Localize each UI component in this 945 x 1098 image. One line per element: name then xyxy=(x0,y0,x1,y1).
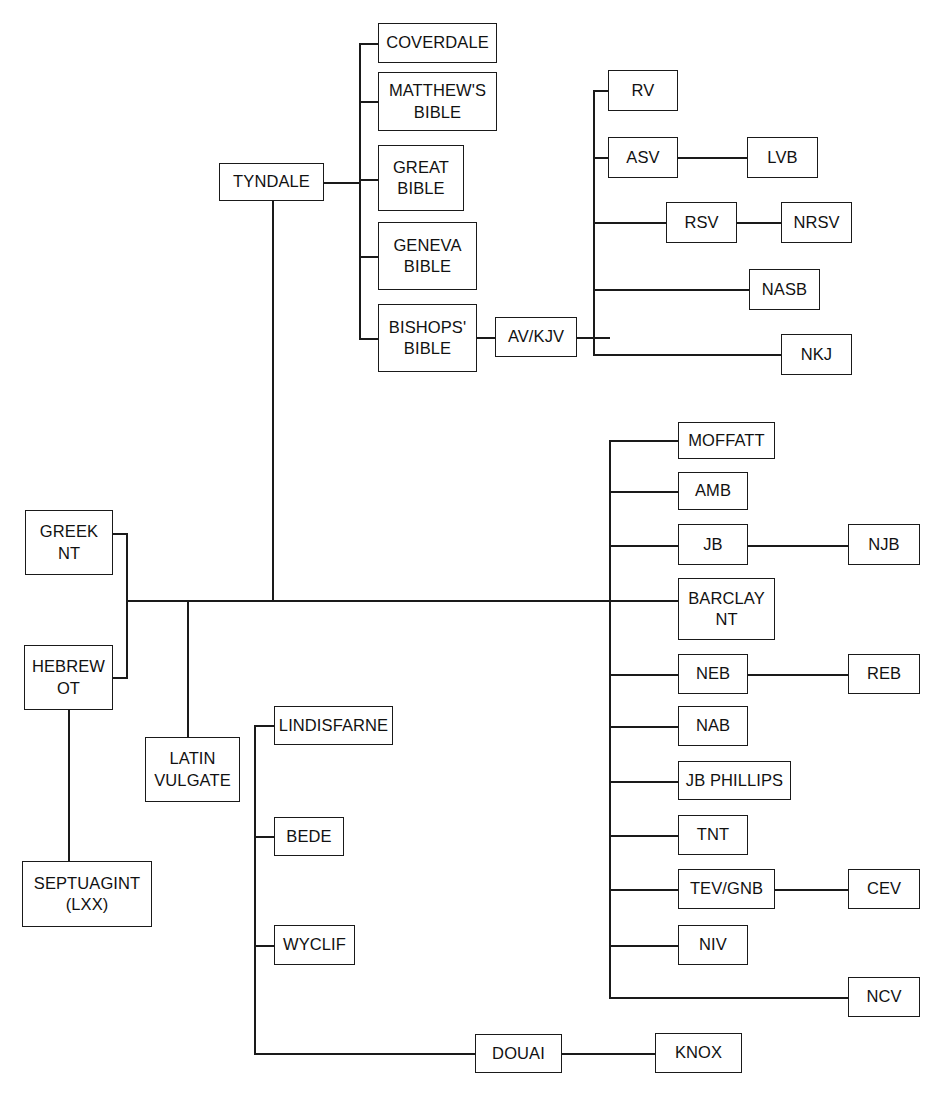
connector-hebrew-septuagint-v xyxy=(68,710,70,862)
connector-modern-bus-v xyxy=(609,440,611,997)
node-njb: NJB xyxy=(848,524,920,565)
connector-bus-wyclif xyxy=(254,945,275,947)
node-nab: NAB xyxy=(678,706,748,746)
connector-tyndale-bishops xyxy=(359,338,379,340)
node-moffatt: MOFFATT xyxy=(678,422,775,459)
connector-modern-barclay xyxy=(609,600,679,602)
connector-avkjv-nkj xyxy=(593,354,782,356)
connector-modern-ncv xyxy=(609,997,849,999)
node-asv: ASV xyxy=(608,137,678,178)
node-septuagint: SEPTUAGINT (LXX) xyxy=(22,861,152,927)
node-jb: JB xyxy=(678,524,748,565)
connector-bus-bede xyxy=(254,836,275,838)
node-great: GREAT BIBLE xyxy=(378,145,464,211)
node-matthews: MATTHEW'S BIBLE xyxy=(378,72,497,131)
connector-modern-neb xyxy=(609,674,679,676)
connector-neb-reb xyxy=(748,674,849,676)
node-ncv: NCV xyxy=(848,977,920,1017)
node-lindisfarne: LINDISFARNE xyxy=(274,706,393,745)
connector-rsv-nrsv xyxy=(737,222,782,224)
node-tev_gnb: TEV/GNB xyxy=(678,869,775,909)
node-latin_vulgate: LATIN VULGATE xyxy=(145,737,240,802)
connector-asv-lvb xyxy=(678,157,748,159)
node-cev: CEV xyxy=(848,869,920,909)
connector-douai-knox xyxy=(562,1053,656,1055)
node-rv: RV xyxy=(608,70,678,111)
node-tyndale: TYNDALE xyxy=(219,163,324,201)
connector-vulgate-join-h xyxy=(254,725,275,727)
node-lvb: LVB xyxy=(747,137,818,178)
connector-avkjv-asv xyxy=(593,157,609,159)
node-neb: NEB xyxy=(678,654,748,694)
node-coverdale: COVERDALE xyxy=(378,23,497,63)
connector-tyndale-great xyxy=(359,179,379,181)
node-bede: BEDE xyxy=(274,817,344,856)
connector-modern-jbphillips xyxy=(609,781,679,783)
bible-translation-lineage-diagram: COVERDALEMATTHEW'S BIBLEGREAT BIBLEGENEV… xyxy=(0,0,945,1098)
node-avkjv: AV/KJV xyxy=(495,317,577,357)
connector-tyndale-geneva xyxy=(359,256,379,258)
node-nasb: NASB xyxy=(749,269,820,310)
node-douai: DOUAI xyxy=(475,1034,562,1073)
connector-modern-tnt xyxy=(609,835,679,837)
node-hebrew_ot: HEBREW OT xyxy=(24,645,113,710)
node-geneva: GENEVA BIBLE xyxy=(378,222,477,290)
connector-main-trunk-h xyxy=(126,600,611,602)
node-jb_phillips: JB PHILLIPS xyxy=(678,761,791,800)
node-rsv: RSV xyxy=(666,202,737,243)
connector-origin-merge-v xyxy=(126,600,128,678)
connector-modern-nab xyxy=(609,726,679,728)
connector-modern-jb xyxy=(609,545,679,547)
node-amb: AMB xyxy=(678,472,748,510)
connector-jb-njb xyxy=(748,545,849,547)
node-nrsv: NRSV xyxy=(781,202,852,243)
connector-tevgnb-cev xyxy=(775,889,849,891)
connector-modern-moffatt xyxy=(609,440,679,442)
connector-tyndale-bus-h xyxy=(324,182,361,184)
node-niv: NIV xyxy=(678,925,748,965)
connector-tyndale-coverdale xyxy=(359,43,379,45)
node-reb: REB xyxy=(848,654,920,694)
connector-avkjv-rsv xyxy=(593,222,667,224)
node-bishops: BISHOPS' BIBLE xyxy=(378,304,477,372)
node-greek_nt: GREEK NT xyxy=(25,510,113,575)
connector-tyndale-down-v xyxy=(272,201,274,601)
connector-avkjv-rv xyxy=(593,90,609,92)
connector-tyndale-matthews xyxy=(359,101,379,103)
node-nkj: NKJ xyxy=(781,334,852,375)
connector-vulgate-drop-v xyxy=(187,600,189,738)
node-wyclif: WYCLIF xyxy=(274,925,355,965)
connector-vulgate-wyclif-bus-v xyxy=(254,725,256,1054)
node-barclay: BARCLAY NT xyxy=(678,578,775,640)
connector-modern-tevgnb xyxy=(609,889,679,891)
connector-modern-amb xyxy=(609,491,679,493)
connector-bishops-avkjv xyxy=(477,337,496,339)
connector-modern-niv xyxy=(609,945,679,947)
node-knox: KNOX xyxy=(655,1033,742,1073)
connector-avkjv-nasb xyxy=(593,289,750,291)
connector-bus-douai-h xyxy=(254,1053,476,1055)
node-tnt: TNT xyxy=(678,815,748,855)
connector-tyndale-bus-v xyxy=(359,43,361,338)
